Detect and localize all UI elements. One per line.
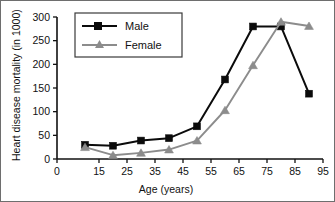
x-axis-title: Age (years)	[139, 183, 193, 195]
x-tick-label: 0	[54, 165, 60, 177]
y-tick-label: 50	[38, 129, 50, 141]
x-tick-label: 15	[93, 165, 105, 177]
x-tick-label: 45	[177, 165, 189, 177]
data-point-male	[250, 23, 257, 30]
chart-canvas: Heart disease mortality (in 1000) Age (y…	[1, 1, 335, 202]
x-tick-label: 25	[121, 165, 133, 177]
y-tick-label: 300	[32, 11, 50, 23]
y-tick-label: 150	[32, 82, 50, 94]
y-tick-label: 0	[44, 153, 50, 165]
legend-label-female: Female	[125, 39, 162, 51]
x-tick-label: 65	[233, 165, 245, 177]
y-tick-label: 100	[32, 105, 50, 117]
x-axis-ticks: 0152535455565758595	[54, 159, 329, 177]
y-tick-label: 250	[32, 34, 50, 46]
data-point-male	[222, 76, 229, 83]
y-axis-ticks: 050100150200250300	[32, 11, 57, 165]
x-tick-label: 35	[149, 165, 161, 177]
data-point-male	[110, 142, 117, 149]
data-point-female	[249, 61, 258, 68]
y-tick-label: 200	[32, 58, 50, 70]
x-tick-label: 95	[317, 165, 329, 177]
data-point-male	[138, 137, 145, 144]
x-tick-label: 55	[205, 165, 217, 177]
chart-figure: Heart disease mortality (in 1000) Age (y…	[0, 0, 335, 202]
data-point-male	[166, 135, 173, 142]
data-point-male	[194, 123, 201, 130]
legend-marker-male-square-icon	[94, 22, 102, 30]
data-point-female	[221, 106, 230, 113]
data-point-male	[306, 90, 313, 97]
x-tick-label: 75	[261, 165, 273, 177]
legend-label-male: Male	[125, 20, 149, 32]
x-tick-label: 85	[289, 165, 301, 177]
y-axis-title: Heart disease mortality (in 1000)	[10, 9, 22, 161]
